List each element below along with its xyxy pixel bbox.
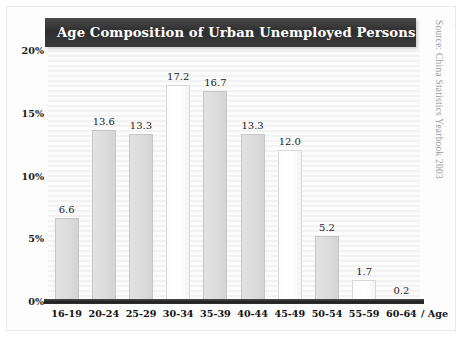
bar-value-label-25-29: 13.3 bbox=[130, 120, 152, 131]
x-axis-tick-16-19: 16-19 bbox=[51, 308, 82, 319]
bar-group-30-34: 17.2 bbox=[160, 50, 197, 301]
page-title: Age Composition of Urban Unemployed Pers… bbox=[57, 25, 415, 40]
y-axis-tick-20pct: 20% bbox=[10, 45, 44, 56]
bar-value-label-55-59: 1.7 bbox=[356, 266, 372, 277]
bar-value-label-35-39: 16.7 bbox=[204, 77, 226, 88]
bar-55-59[interactable] bbox=[352, 280, 376, 301]
bar-group-35-39: 16.7 bbox=[197, 50, 234, 301]
bar-group-45-49: 12.0 bbox=[271, 50, 308, 301]
bar-value-label-45-49: 12.0 bbox=[279, 136, 301, 147]
bar-35-39[interactable] bbox=[203, 91, 227, 301]
bar-40-44[interactable] bbox=[241, 134, 265, 301]
x-axis-tick-60-64: 60-64 bbox=[386, 308, 417, 319]
bar-16-19[interactable] bbox=[55, 218, 79, 301]
bar-20-24[interactable] bbox=[92, 130, 116, 301]
x-axis-tick-55-59: 55-59 bbox=[349, 308, 380, 319]
y-axis-tick-labels: 0%5%10%15%20% bbox=[6, 0, 44, 337]
y-axis-tick-15pct: 15% bbox=[10, 107, 44, 118]
bar-group-50-54: 5.2 bbox=[308, 50, 345, 301]
x-axis-line bbox=[44, 299, 424, 304]
x-axis-tick-50-54: 50-54 bbox=[312, 308, 343, 319]
bar-value-label-50-54: 5.2 bbox=[319, 222, 335, 233]
bar-25-29[interactable] bbox=[129, 134, 153, 301]
x-axis-tick-35-39: 35-39 bbox=[200, 308, 231, 319]
bar-group-25-29: 13.3 bbox=[122, 50, 159, 301]
source-note: Source: China Statistics Yearbook 2003 bbox=[430, 20, 444, 230]
bar-value-label-40-44: 13.3 bbox=[241, 120, 263, 131]
bar-group-16-19: 6.6 bbox=[48, 50, 85, 301]
x-axis-tick-labels: 16-1920-2425-2930-3435-3940-4445-4950-54… bbox=[48, 308, 420, 328]
bar-group-20-24: 13.6 bbox=[85, 50, 122, 301]
x-axis-tick-30-34: 30-34 bbox=[163, 308, 194, 319]
chart-title-banner: Age Composition of Urban Unemployed Pers… bbox=[45, 18, 416, 47]
x-axis-tick-20-24: 20-24 bbox=[88, 308, 119, 319]
plot-area: 6.613.613.317.216.713.312.05.21.70.2 bbox=[48, 50, 420, 301]
bar-value-label-30-34: 17.2 bbox=[167, 71, 189, 82]
x-axis-tick-25-29: 25-29 bbox=[126, 308, 157, 319]
x-axis-tick-40-44: 40-44 bbox=[237, 308, 268, 319]
bar-45-49[interactable] bbox=[278, 150, 302, 301]
x-axis-unit-label: / Age bbox=[421, 308, 448, 319]
bar-50-54[interactable] bbox=[315, 236, 339, 301]
y-axis-tick-10pct: 10% bbox=[10, 170, 44, 181]
bar-value-label-16-19: 6.6 bbox=[59, 204, 75, 215]
bar-group-60-64: 0.2 bbox=[383, 50, 420, 301]
chart-figure: Age Composition of Urban Unemployed Pers… bbox=[0, 0, 462, 337]
bar-group-40-44: 13.3 bbox=[234, 50, 271, 301]
bar-group-55-59: 1.7 bbox=[346, 50, 383, 301]
bar-value-label-20-24: 13.6 bbox=[93, 116, 115, 127]
y-axis-tick-5pct: 5% bbox=[10, 233, 44, 244]
y-axis-tick-0pct: 0% bbox=[10, 296, 44, 307]
bar-30-34[interactable] bbox=[166, 85, 190, 301]
bar-value-label-60-64: 0.2 bbox=[393, 285, 409, 296]
x-axis-tick-45-49: 45-49 bbox=[274, 308, 305, 319]
